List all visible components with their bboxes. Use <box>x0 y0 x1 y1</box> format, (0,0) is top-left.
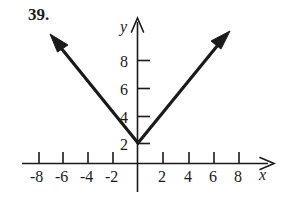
x-tick-label-4: 4 <box>184 168 192 185</box>
curve-right-arrowhead-icon <box>211 31 230 49</box>
x-tick-label--6: -6 <box>55 168 68 185</box>
y-tick-label-8: 8 <box>120 53 128 70</box>
coordinate-plane-plot: x -8 -6 -4 -2 2 4 6 8 y <box>0 0 284 200</box>
y-axis-tick-labels: 8 6 4 2 <box>120 53 128 153</box>
x-axis-label: x <box>258 166 266 183</box>
y-axis-label: y <box>118 18 128 36</box>
x-tick-label--8: -8 <box>30 168 43 185</box>
curve-left-arrowhead-icon <box>50 34 68 52</box>
curve-right-arm <box>138 40 222 143</box>
x-axis-ticks <box>39 152 239 163</box>
x-tick-label--4: -4 <box>80 168 93 185</box>
y-tick-label-6: 6 <box>120 81 128 98</box>
x-tick-label-8: 8 <box>234 168 242 185</box>
x-tick-label--2: -2 <box>105 168 118 185</box>
absolute-value-curve <box>50 31 230 143</box>
x-tick-label-2: 2 <box>158 168 166 185</box>
x-axis-tick-labels: -8 -6 -4 -2 2 4 6 8 <box>30 168 242 185</box>
y-axis-group: y <box>118 18 144 192</box>
y-tick-label-2: 2 <box>120 136 128 153</box>
x-tick-label-6: 6 <box>209 168 217 185</box>
graph-figure: 39. x -8 -6 -4 -2 2 <box>0 0 284 200</box>
